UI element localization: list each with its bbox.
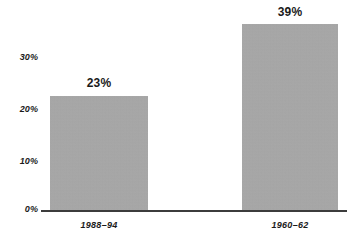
y-tick-label-0: 0% [25,204,38,214]
plot-area: 30% 20% 10% 0% 23% 39% 1988–94 1960–62 [0,0,358,244]
bar-value-label-1960-62: 39% [242,5,338,19]
y-tick-label-10: 10% [20,156,38,166]
x-axis-line [41,210,347,212]
y-axis: 30% 20% 10% 0% [0,0,38,244]
bar-1960-62 [242,24,338,210]
x-category-label-1960-62: 1960–62 [242,220,338,230]
y-tick-label-30: 30% [20,52,38,62]
bar-chart: 30% 20% 10% 0% 23% 39% 1988–94 1960–62 [0,0,358,244]
x-category-label-1988-94: 1988–94 [50,220,148,230]
bar-value-label-1988-94: 23% [50,76,148,90]
y-tick-label-20: 20% [20,104,38,114]
bar-1988-94 [50,96,148,210]
